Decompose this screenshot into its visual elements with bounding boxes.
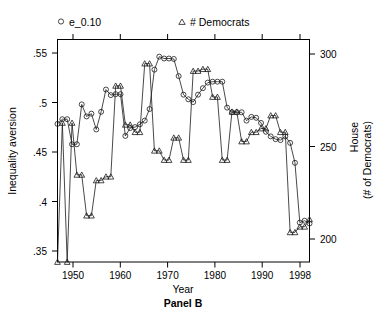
x-axis-title: Year — [172, 283, 194, 295]
x-tick-label: 1990 — [251, 270, 274, 281]
chart-legend: e_0.10 # Democrats — [58, 16, 249, 28]
left-tick-label: .4 — [39, 197, 48, 208]
left-tick-label: .45 — [33, 147, 47, 158]
x-axis-ticks: 1950 1960 1970 1980 1990 1998 — [62, 34, 312, 281]
panel-title: Panel B — [164, 297, 203, 309]
x-tick-label: 1950 — [62, 270, 85, 281]
series-layer — [55, 54, 313, 264]
y2-axis-title-line1: House — [348, 122, 360, 153]
right-tick-label: 300 — [320, 49, 337, 60]
left-tick-label: .5 — [39, 98, 48, 109]
left-tick-label: .55 — [33, 48, 47, 59]
legend-circle-icon — [58, 19, 63, 24]
x-tick-label: 1980 — [204, 270, 227, 281]
chart-figure: e_0.10 # Democrats .55 .5 .45 .4 .35 300… — [0, 0, 389, 311]
right-tick-label: 250 — [320, 142, 337, 153]
right-tick-label: 200 — [320, 234, 337, 245]
legend-label-e010: e_0.10 — [69, 16, 101, 28]
y2-axis-title-line2: (# of Democrats) — [361, 121, 373, 199]
legend-triangle-icon — [179, 19, 185, 24]
left-tick-label: .35 — [33, 246, 47, 257]
legend-label-democrats: # Democrats — [190, 16, 250, 28]
series-line-e010 — [58, 57, 310, 224]
x-tick-label: 1960 — [109, 270, 132, 281]
left-axis-ticks: .55 .5 .45 .4 .35 — [33, 48, 57, 257]
y-axis-title: Inequality aversion — [6, 107, 18, 195]
panel-b-chart: e_0.10 # Democrats .55 .5 .45 .4 .35 300… — [0, 0, 389, 311]
right-axis-ticks: 300 250 200 — [310, 49, 338, 245]
x-tick-label: 1970 — [156, 270, 179, 281]
plot-frame — [58, 40, 310, 263]
x-tick-label: 1998 — [289, 270, 312, 281]
